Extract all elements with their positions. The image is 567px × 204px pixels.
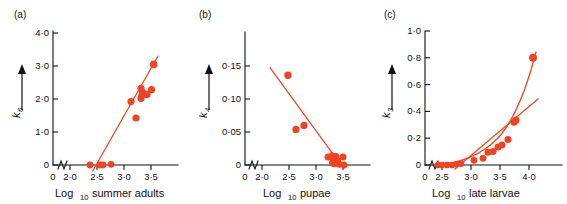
panel-a-ylabel-1: 1·0 (35, 126, 49, 137)
panel-b-x-axis-title-sub: 10 (288, 193, 296, 202)
panel-a-ylabel-3: 3·0 (35, 60, 49, 71)
panel-c: (c) 0 0·2 0·4 0·6 0·8 1·0 0 2·5 3·0 (370, 0, 567, 204)
panel-a-xlabel-35: 3·5 (144, 171, 158, 182)
panel-a-xlabel-20: 2·0 (63, 171, 77, 182)
panel-b-x-axis-title-rest: pupae (300, 187, 331, 199)
panel-b-ylabel-010: 0·10 (222, 93, 241, 104)
panel-b-xlabel-20: 2·0 (255, 171, 269, 182)
panel-b-ylabel-0: 0 (236, 159, 241, 170)
panel-b: (b) 0 0·05 0·10 0·15 0 2·0 2·5 3·0 3·5 (185, 0, 375, 204)
data-point (458, 160, 465, 167)
panel-c-fit-line (455, 99, 538, 169)
data-point (471, 157, 478, 164)
panel-b-ylabel-005: 0·05 (222, 126, 241, 137)
panel-c-data-points (435, 54, 537, 169)
panel-a-ylabel-sub: 6 (16, 107, 25, 112)
panel-b-plot: (b) 0 0·05 0·10 0·15 0 2·0 2·5 3·0 3·5 (185, 0, 375, 204)
panel-a-ylabel-4: 4·0 (35, 27, 49, 38)
panel-a-ylabel-0: 0 (44, 159, 49, 170)
data-point (341, 162, 348, 169)
panel-c-ylabel-0: 0 (416, 159, 421, 170)
panel-a-y-axis-title: k 6 (10, 107, 25, 118)
data-point (137, 85, 144, 92)
panel-c-y-axis-title: k 3 (380, 107, 395, 118)
panel-c-ylabel-06: 0·6 (407, 79, 421, 90)
panel-c-x-axis-title-sub: 10 (457, 193, 465, 202)
panel-c-xlabel-40: 4·0 (522, 171, 536, 182)
data-point (284, 72, 291, 79)
panel-c-ylabel-04: 0·4 (407, 105, 421, 116)
panel-c-xlabel-30: 3·0 (464, 171, 478, 182)
panel-b-data-points (284, 72, 347, 169)
panel-c-x-axis-title-rest: late larvae (469, 187, 520, 199)
data-point (108, 161, 115, 168)
data-point (300, 122, 307, 129)
panel-b-x-axis-title-base: Log (263, 187, 281, 199)
panel-a-tag: (a) (14, 9, 26, 20)
panel-a-axis-break (58, 161, 67, 169)
panel-a-x-axis-title-rest: summer adults (92, 187, 165, 199)
panel-a-x-axis-title-sub: 10 (80, 193, 88, 202)
panel-c-tag: (c) (384, 9, 396, 20)
panel-c-fit-curve (435, 52, 536, 166)
panel-c-ylabel-02: 0·2 (407, 132, 421, 143)
panel-a: (a) 0 1·0 2·0 3·0 4·0 0 2·0 (0, 0, 190, 204)
panel-b-fit-line (270, 68, 339, 163)
data-point (148, 86, 155, 93)
data-point (529, 54, 537, 62)
data-point (512, 117, 519, 124)
panel-a-ylabel-2: 2·0 (35, 93, 49, 104)
data-point (340, 154, 347, 161)
panel-c-ylabel-08: 0·8 (407, 52, 421, 63)
panel-b-tag: (b) (199, 9, 211, 20)
data-point (505, 136, 512, 143)
panel-b-xlabel-30: 3·0 (309, 171, 323, 182)
data-point (499, 141, 506, 148)
panel-c-ylabel-sub: 3 (386, 107, 395, 112)
panel-b-y-arrow-head (205, 64, 213, 74)
panel-b-y-axis-title: k 4 (197, 108, 212, 118)
data-point (150, 61, 158, 69)
panel-a-fit-line (93, 56, 158, 171)
panel-c-x-axis-title-base: Log (432, 187, 450, 199)
panel-b-xlabel-25: 2·5 (282, 171, 296, 182)
panel-b-axis-break (249, 161, 258, 169)
panel-a-x-axis-title-base: Log (55, 187, 73, 199)
panel-a-xlabel-0: 0 (50, 171, 55, 182)
panel-a-xlabel-25: 2·5 (90, 171, 104, 182)
panel-c-xlabel-0: 0 (422, 171, 427, 182)
panel-c-xlabel-35: 3·5 (493, 171, 507, 182)
data-point (87, 162, 94, 169)
panel-c-y-arrow-head (388, 64, 396, 74)
panel-a-y-arrow-head (18, 64, 26, 74)
panel-b-xlabel-0: 0 (242, 171, 247, 182)
panel-b-xlabel-35: 3·5 (336, 171, 350, 182)
data-point (480, 155, 487, 162)
data-point (100, 162, 107, 169)
panel-c-ylabel-10: 1·0 (407, 25, 421, 36)
panel-b-ylabel-sub: 4 (203, 108, 212, 112)
panel-a-plot: (a) 0 1·0 2·0 3·0 4·0 0 2·0 (0, 0, 190, 204)
data-point (292, 126, 299, 133)
data-point (132, 114, 139, 121)
panel-c-xlabel-25: 2·5 (435, 171, 449, 182)
panel-b-ylabel-015: 0·15 (222, 60, 241, 71)
panel-c-plot: (c) 0 0·2 0·4 0·6 0·8 1·0 0 2·5 3·0 (370, 0, 567, 204)
panel-a-xlabel-30: 3·0 (117, 171, 131, 182)
data-point (127, 98, 134, 105)
figure-container: (a) 0 1·0 2·0 3·0 4·0 0 2·0 (0, 0, 567, 204)
